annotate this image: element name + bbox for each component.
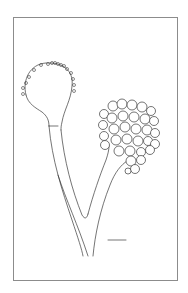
spore-cluster [99,99,160,174]
left-vesicle [25,63,72,130]
figure-canvas [0,0,188,293]
right-stalk [88,146,127,256]
sterigmata [22,62,76,96]
sporophore-illustration [0,0,188,293]
left-stalk [49,126,88,256]
